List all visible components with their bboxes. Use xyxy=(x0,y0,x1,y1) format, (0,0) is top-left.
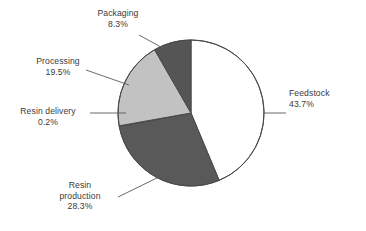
leader-line-resin-production xyxy=(118,176,161,197)
pie-label-packaging-name: Packaging xyxy=(84,8,152,19)
pie-label-processing-value: 19.5% xyxy=(24,67,92,78)
pie-label-feedstock-value: 43.7% xyxy=(289,99,359,110)
pie-label-resin-delivery-value: 0.2% xyxy=(8,117,88,128)
pie-label-resin-production: Resin production 28.3% xyxy=(44,180,116,212)
pie-label-processing: Processing 19.5% xyxy=(24,56,92,77)
pie-label-processing-name: Processing xyxy=(24,56,92,67)
pie-label-feedstock-name: Feedstock xyxy=(289,88,359,99)
pie-label-packaging: Packaging 8.3% xyxy=(84,8,152,29)
pie-label-resin-production-name-line1: Resin xyxy=(44,180,116,191)
pie-label-resin-production-name-line2: production xyxy=(44,191,116,202)
pie-chart-figure: Packaging 8.3% Processing 19.5% Resin de… xyxy=(0,0,366,231)
pie-label-resin-delivery-name: Resin delivery xyxy=(8,106,88,117)
pie-label-feedstock: Feedstock 43.7% xyxy=(289,88,359,109)
pie-label-resin-delivery: Resin delivery 0.2% xyxy=(8,106,88,127)
leader-line-processing xyxy=(86,70,129,85)
pie-label-resin-production-value: 28.3% xyxy=(44,201,116,212)
pie-slices xyxy=(118,40,264,186)
pie-label-packaging-value: 8.3% xyxy=(84,19,152,30)
